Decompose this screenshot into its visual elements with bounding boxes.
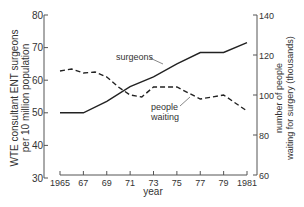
x-axis-label: year [143, 186, 163, 197]
x-tick-label: 69 [102, 178, 112, 188]
x-tick-label: 1965 [50, 178, 70, 188]
left-y-ticks: 304050607080 [32, 10, 48, 184]
left-axis-label-line1: WTE consultant ENT surgeons [9, 29, 20, 166]
right-axis-label-line1: number of people [274, 63, 284, 133]
people-waiting-annotation-line2: waiting [150, 112, 179, 122]
left-tick-label: 80 [32, 10, 44, 21]
right-axis-label-line2: waiting for surgery (thousands) [285, 36, 295, 161]
left-tick-label: 30 [32, 173, 44, 184]
x-tick-label: 67 [78, 178, 88, 188]
people-waiting-annotation-line1: people [151, 102, 178, 112]
right-tick-label: 100 [259, 91, 274, 101]
right-tick-label: 80 [259, 131, 269, 141]
left-axis-label-line2: per 10 million population [20, 44, 31, 152]
dual-axis-line-chart: 304050607080 6080100120140 1965676971737… [0, 0, 304, 207]
x-tick-label: 77 [195, 178, 205, 188]
left-tick-label: 70 [32, 42, 44, 53]
right-y-ticks: 6080100120140 [253, 11, 274, 181]
right-tick-label: 60 [259, 171, 269, 181]
x-tick-label: 71 [125, 178, 135, 188]
right-tick-label: 120 [259, 51, 274, 61]
people-waiting-leader-line [180, 97, 190, 106]
x-tick-label: 1981 [237, 178, 257, 188]
x-tick-label: 79 [219, 178, 229, 188]
left-tick-label: 60 [32, 75, 44, 86]
right-tick-label: 140 [259, 11, 274, 21]
surgeons-annotation: surgeons [116, 52, 154, 62]
x-tick-label: 75 [172, 178, 182, 188]
left-tick-label: 50 [32, 107, 44, 118]
left-tick-label: 40 [32, 140, 44, 151]
